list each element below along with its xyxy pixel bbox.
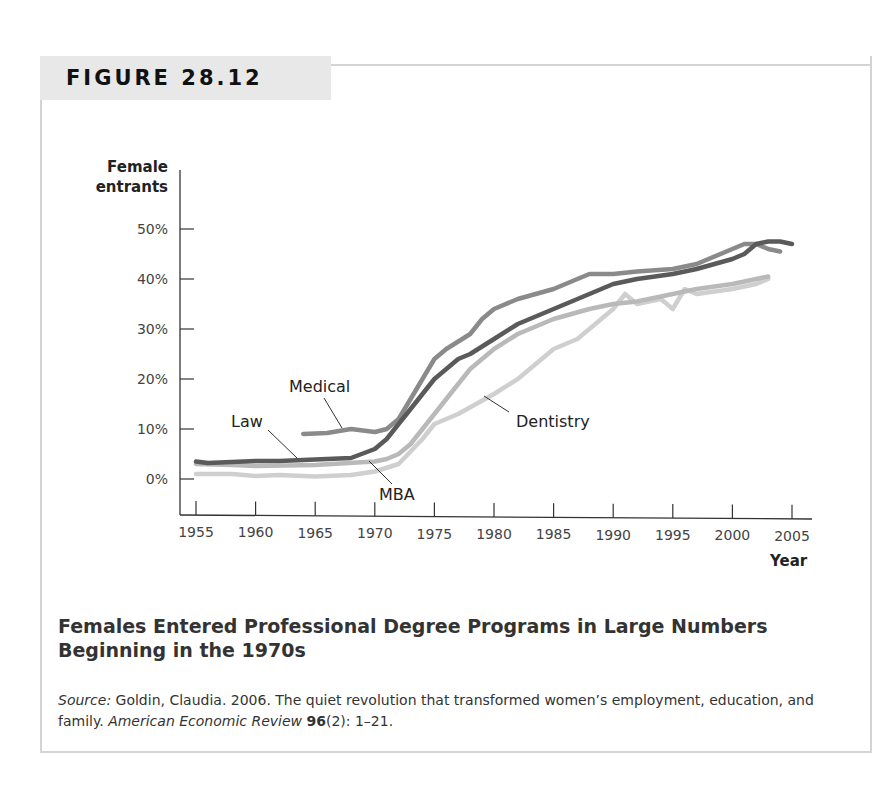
y-tick-label: 0% [146,471,168,487]
x-tick-label: 1955 [178,524,214,540]
series-line-medical [303,244,780,434]
source-volume: 96 [306,713,325,729]
x-tick-label: 1995 [655,527,691,543]
x-tick-label: 1965 [297,525,333,541]
annotation-dentistry: Dentistry [516,412,590,431]
leader-medical [324,398,342,428]
source-pages: (2): 1–21. [326,713,393,729]
source-journal: American Economic Review [108,713,302,729]
x-axis [180,515,812,519]
x-tick-label: 1985 [536,526,572,542]
leader-dentistry [484,396,509,412]
line-chart: 0%10%20%30%40%50%19551960196519701975198… [0,0,895,791]
x-tick-label: 1960 [238,524,274,540]
series-line-law [196,242,792,464]
series-line-mba [196,277,768,467]
y-tick-label: 30% [137,321,168,337]
annotation-medical: Medical [289,377,350,396]
x-tick-label: 1990 [595,527,631,543]
y-tick-label: 20% [137,371,168,387]
annotation-law: Law [231,412,263,431]
x-tick-label: 2005 [774,528,810,544]
series-line-dentistry [196,279,768,477]
annotation-mba: MBA [379,485,415,504]
x-tick-label: 2000 [715,527,751,543]
x-tick-label: 1975 [417,526,453,542]
figure-title: Females Entered Professional Degree Prog… [58,614,838,662]
y-tick-label: 40% [137,271,168,287]
y-tick-label: 50% [137,221,168,237]
y-tick-label: 10% [137,421,168,437]
source-prefix: Source: [58,692,111,708]
leader-law [268,430,297,458]
x-tick-label: 1970 [357,525,393,541]
figure-source: Source: Goldin, Claudia. 2006. The quiet… [58,690,858,732]
x-tick-label: 1980 [476,526,512,542]
